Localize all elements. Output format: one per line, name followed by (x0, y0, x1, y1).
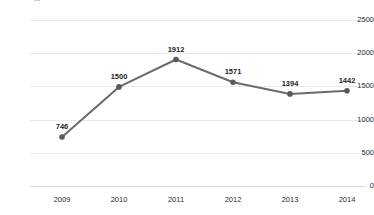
x-axis-tick-label: 2013 (270, 195, 310, 204)
data-point-label: 1394 (270, 79, 310, 88)
data-point-marker (230, 79, 236, 85)
data-point-label: 1500 (99, 72, 139, 81)
data-point-marker (173, 57, 179, 63)
data-point-marker (344, 88, 350, 94)
data-point-label: 746 (42, 122, 82, 131)
data-point-marker (59, 134, 65, 140)
data-point-label: 1442 (327, 76, 367, 85)
x-axis-tick-label: 2010 (99, 195, 139, 204)
line-chart: ... 05001000150020002500 746150019121571… (0, 0, 374, 215)
data-point-marker (116, 84, 122, 90)
x-axis-tick-label: 2012 (213, 195, 253, 204)
data-point-marker (287, 91, 293, 97)
series-markers (59, 57, 350, 140)
plot-area: 05001000150020002500 7461500191215711394… (0, 0, 374, 215)
x-axis-tick-label: 2011 (156, 195, 196, 204)
data-point-label: 1912 (156, 45, 196, 54)
x-axis-tick-label: 2014 (327, 195, 367, 204)
x-axis-tick-label: 2009 (42, 195, 82, 204)
series-line (0, 0, 374, 215)
data-point-label: 1571 (213, 67, 253, 76)
